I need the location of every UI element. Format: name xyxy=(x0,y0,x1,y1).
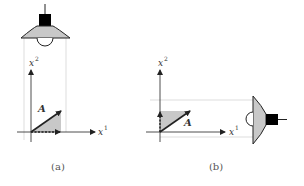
x-axis-label: x xyxy=(229,127,234,137)
vector-label: A xyxy=(183,117,192,128)
y-axis-label: x xyxy=(29,58,34,68)
x-axis-sup: 1 xyxy=(104,124,108,131)
vector-projection-figure: A x 2 x 1 (a) A x 2 x 1 (b) xyxy=(0,0,304,186)
y-axis-sup: 2 xyxy=(164,55,168,62)
panel-a: A x 2 x 1 (a) xyxy=(17,4,108,172)
vector-label: A xyxy=(37,103,46,114)
x-axis-sup: 1 xyxy=(235,124,239,131)
y-axis-label: x xyxy=(158,58,163,68)
caption-b: (b) xyxy=(209,161,223,172)
panel-b: A x 2 x 1 (b) xyxy=(146,55,287,172)
y-axis-sup: 2 xyxy=(35,55,39,62)
x-axis-label: x xyxy=(98,127,103,137)
lamp-icon xyxy=(21,4,70,46)
caption-a: (a) xyxy=(51,161,65,172)
